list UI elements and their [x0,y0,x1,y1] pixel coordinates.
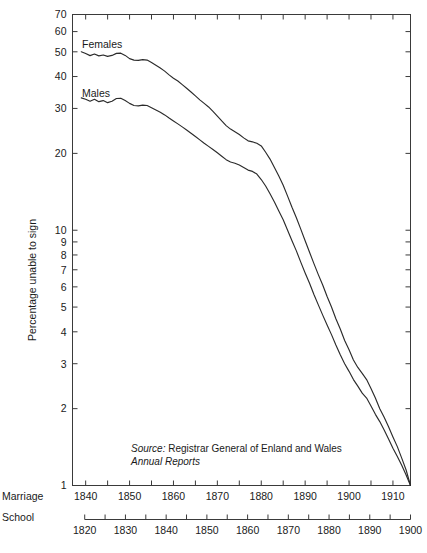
series-label-females: Females [82,38,122,50]
literacy-line-chart: 7060504030201098765432118401850186018701… [0,0,427,553]
marriage-tick-label: 1840 [74,490,98,502]
school-tick-label: 1820 [73,524,97,536]
y-tick-label: 10 [55,224,67,236]
top-axis-ticks [86,15,393,20]
marriage-tick-label: 1860 [162,490,186,502]
y-tick-label: 6 [61,281,67,293]
marriage-tick-label: 1910 [381,490,405,502]
source-note-italic-prefix: Source: [131,443,166,454]
plot-frame [73,15,411,486]
y-tick-label: 40 [55,70,67,82]
source-note-line2: Annual Reports [130,456,200,467]
y-axis-ticks: 70605040302010987654321 [55,8,78,491]
source-note: Source: Registrar General of Enland and … [130,443,342,467]
y-tick-label: 30 [55,102,67,114]
marriage-tick-label: 1880 [250,490,274,502]
series-line-males [81,98,410,486]
y-tick-label: 50 [55,46,67,58]
marriage-tick-label: 1900 [337,490,361,502]
school-axis: 182018301840185018601870188018901900 [73,515,422,536]
marriage-axis: 18401850186018701880189019001910 [74,481,405,502]
source-note-line1: Source: Registrar General of Enland and … [131,443,342,454]
school-tick-label: 1850 [195,524,219,536]
school-tick-label: 1860 [236,524,260,536]
series-line-females [81,52,410,486]
y-tick-label: 4 [61,326,67,338]
chart-container: 7060504030201098765432118401850186018701… [0,0,427,553]
y-tick-label: 1 [61,479,67,491]
school-tick-label: 1840 [154,524,178,536]
y-tick-label: 8 [61,249,67,261]
y-axis-right-ticks [406,15,411,486]
y-tick-label: 5 [61,301,67,313]
y-tick-label: 3 [61,358,67,370]
y-tick-label: 9 [61,236,67,248]
marriage-tick-label: 1890 [293,490,317,502]
school-tick-label: 1870 [277,524,301,536]
y-tick-label: 7 [61,264,67,276]
marriage-tick-label: 1850 [118,490,142,502]
y-tick-label: 20 [55,147,67,159]
source-note-regular-text: Registrar General of Enland and Wales [165,443,341,454]
school-tick-label: 1900 [399,524,423,536]
school-tick-label: 1890 [358,524,382,536]
y-tick-label: 70 [55,8,67,20]
series-label-males: Males [82,87,110,99]
school-tick-label: 1880 [317,524,341,536]
school-tick-label: 1830 [114,524,138,536]
y-tick-label: 60 [55,25,67,37]
marriage-tick-label: 1870 [206,490,230,502]
y-axis-title: Percentage unable to sign [26,219,38,341]
marriage-axis-label: Marriage [2,490,44,502]
y-tick-label: 2 [61,402,67,414]
school-axis-label: School [2,511,34,523]
